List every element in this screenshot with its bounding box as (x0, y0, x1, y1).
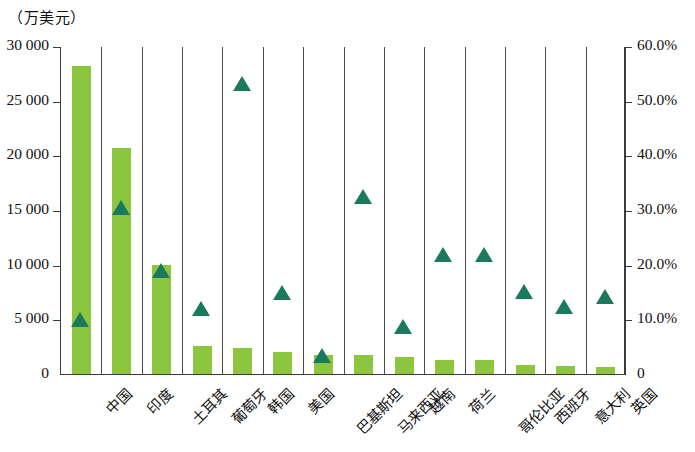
category-divider (142, 47, 143, 374)
category-divider (101, 47, 102, 374)
y-axis-left-tick (53, 156, 60, 157)
category-divider (424, 47, 425, 374)
y-axis-left-tick (53, 211, 60, 212)
y-axis-right-tick (625, 211, 632, 212)
y-axis-left-label: 0 (41, 364, 49, 382)
bar (596, 367, 615, 374)
y-axis-right-label: 40.0% (637, 145, 677, 163)
data-point-marker (233, 76, 251, 91)
data-point-marker (71, 312, 89, 327)
bar (475, 360, 494, 374)
category-divider (465, 47, 466, 374)
y-axis-right-label: 10.0% (637, 309, 677, 327)
unit-caption: （万美元） (8, 6, 86, 27)
y-axis-left-label: 15 000 (6, 200, 49, 218)
data-point-marker (152, 263, 170, 278)
x-axis-category-label: 中国 (101, 383, 136, 418)
bar (112, 148, 131, 374)
plot-area (60, 47, 625, 375)
y-axis-left-tick (53, 266, 60, 267)
bar (556, 366, 575, 374)
y-axis-right-tick (625, 266, 632, 267)
y-axis-left-label: 30 000 (6, 36, 49, 54)
x-axis-category-label: 印度 (141, 383, 176, 418)
data-point-marker (515, 284, 533, 299)
y-axis-right-label: 30.0% (637, 200, 677, 218)
x-axis-category-label: 美国 (302, 383, 337, 418)
data-point-marker (273, 285, 291, 300)
data-point-marker (555, 299, 573, 314)
data-point-marker (192, 301, 210, 316)
y-axis-right-tick (625, 320, 632, 321)
data-point-marker (596, 289, 614, 304)
y-axis-left-label: 10 000 (6, 255, 49, 273)
y-axis-left-label: 5 000 (14, 309, 49, 327)
category-divider (545, 47, 546, 374)
y-axis-right-label: 50.0% (637, 91, 677, 109)
category-divider (182, 47, 183, 374)
bar (395, 357, 414, 374)
y-axis-left-tick (53, 320, 60, 321)
category-divider (263, 47, 264, 374)
bar (516, 365, 535, 374)
data-point-marker (112, 200, 130, 215)
category-divider (222, 47, 223, 374)
y-axis-right-tick (625, 102, 632, 103)
y-axis-right-label: 60.0% (637, 36, 677, 54)
x-axis-category-label: 土耳其 (185, 383, 230, 428)
data-point-marker (313, 348, 331, 363)
category-divider (303, 47, 304, 374)
y-axis-right-tick (625, 156, 632, 157)
y-axis-left-label: 20 000 (6, 145, 49, 163)
category-divider (505, 47, 506, 374)
data-point-marker (434, 247, 452, 262)
bar (435, 360, 454, 374)
bar (72, 66, 91, 374)
bar (193, 346, 212, 374)
category-divider (384, 47, 385, 374)
y-axis-right-label: 20.0% (637, 255, 677, 273)
data-point-marker (475, 247, 493, 262)
data-point-marker (394, 319, 412, 334)
category-divider (586, 47, 587, 374)
y-axis-left-tick (53, 102, 60, 103)
bar (152, 265, 171, 374)
bar (233, 348, 252, 374)
category-divider (344, 47, 345, 374)
y-axis-right-label: 0 (637, 364, 645, 382)
y-axis-left-label: 25 000 (6, 91, 49, 109)
y-axis-left-tick (53, 47, 60, 48)
y-axis-right-tick (625, 47, 632, 48)
chart-root: （万美元） 30 00025 00020 00015 00010 0005 00… (0, 0, 695, 452)
bar (354, 355, 373, 374)
data-point-marker (354, 189, 372, 204)
x-axis-category-label: 英国 (625, 383, 660, 418)
x-axis-category-label: 韩国 (262, 383, 297, 418)
bar (273, 352, 292, 374)
x-axis-category-label: 荷兰 (464, 383, 499, 418)
